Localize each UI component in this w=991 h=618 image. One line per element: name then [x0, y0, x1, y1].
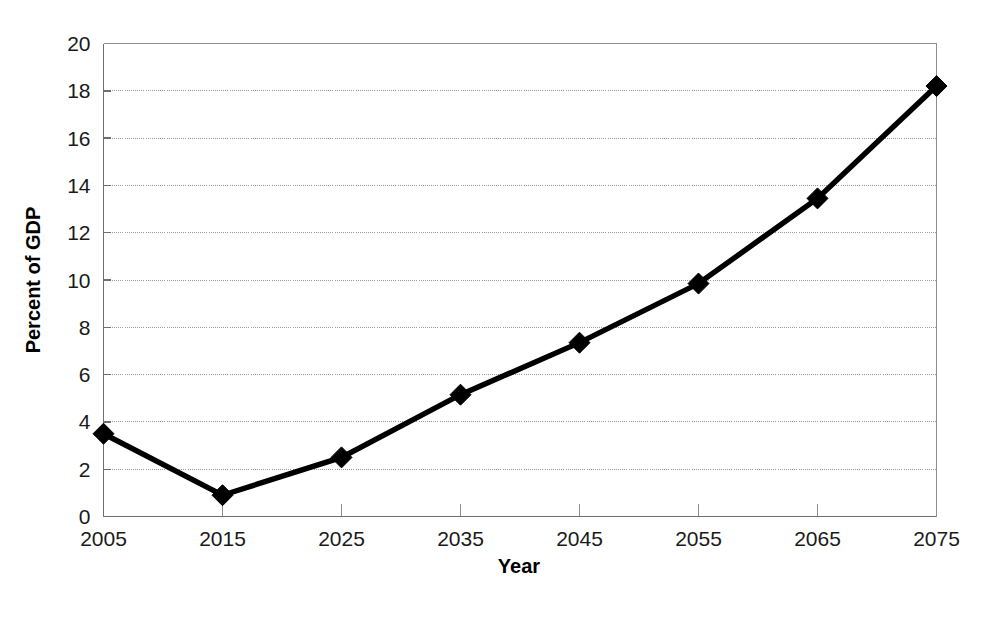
y-tick-label: 6 [79, 363, 91, 386]
x-tick-label: 2015 [199, 527, 246, 550]
y-tick-label: 10 [67, 269, 90, 292]
y-tick-label: 0 [79, 505, 91, 528]
y-tick-label: 8 [79, 316, 91, 339]
chart-container: 02468101214161820 2005201520252035204520… [0, 0, 991, 618]
y-axis-title: Percent of GDP [22, 207, 44, 354]
x-tick-label: 2055 [675, 527, 722, 550]
x-tick-label: 2035 [437, 527, 484, 550]
x-tick-label: 2005 [80, 527, 127, 550]
line-chart: 02468101214161820 2005201520252035204520… [0, 0, 991, 618]
x-tick-label: 2075 [913, 527, 960, 550]
y-tick-label: 2 [79, 458, 91, 481]
x-tick-label: 2025 [318, 527, 365, 550]
y-tick-label: 18 [67, 79, 90, 102]
x-axis-title: Year [498, 555, 540, 577]
x-tick-label: 2065 [794, 527, 841, 550]
y-tick-label: 16 [67, 127, 90, 150]
y-tick-label: 20 [67, 32, 90, 55]
y-tick-label: 4 [79, 410, 91, 433]
chart-background [0, 0, 991, 618]
x-tick-label: 2045 [556, 527, 603, 550]
y-tick-label: 12 [67, 221, 90, 244]
y-tick-label: 14 [67, 174, 91, 197]
